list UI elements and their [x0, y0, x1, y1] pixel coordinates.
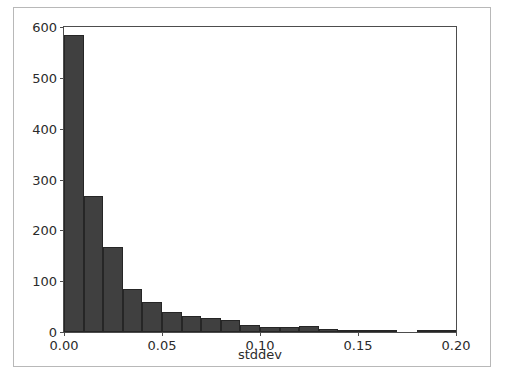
histogram-bar: [182, 316, 202, 332]
figure-panel: 0100200300400500600 0.000.050.100.150.20…: [13, 7, 491, 367]
plot-area: 0100200300400500600 0.000.050.100.150.20: [63, 26, 457, 333]
y-tick-label: 0: [49, 326, 57, 339]
histogram-bars: [64, 27, 456, 332]
x-tick-mark: [358, 332, 359, 336]
histogram-bar: [260, 327, 280, 332]
y-tick-mark: [60, 78, 64, 79]
y-tick-mark: [60, 27, 64, 28]
y-tick-label: 400: [32, 122, 57, 135]
histogram-bar: [417, 330, 437, 332]
y-tick-label: 200: [32, 224, 57, 237]
histogram-bar: [338, 330, 358, 332]
x-tick-mark: [260, 332, 261, 336]
histogram-bar: [319, 329, 339, 332]
y-tick-label: 600: [32, 21, 57, 34]
histogram-bar: [436, 330, 456, 332]
histogram-bar: [103, 247, 123, 332]
histogram-bar: [84, 196, 104, 332]
x-tick-mark: [64, 332, 65, 336]
histogram-bar: [280, 327, 300, 332]
histogram-bar: [123, 289, 143, 332]
histogram-bar: [378, 330, 398, 332]
histogram-bar: [358, 330, 378, 332]
histogram-bar: [221, 320, 241, 332]
x-axis-label: stddev: [63, 348, 457, 361]
histogram-bar: [240, 325, 260, 332]
y-tick-mark: [60, 129, 64, 130]
histogram-bar: [142, 302, 162, 332]
histogram-bar: [64, 35, 84, 332]
y-tick-label: 300: [32, 173, 57, 186]
x-tick-mark: [456, 332, 457, 336]
y-tick-mark: [60, 230, 64, 231]
histogram-bar: [162, 312, 182, 332]
y-tick-label: 500: [32, 71, 57, 84]
histogram-bar: [201, 318, 221, 332]
y-tick-mark: [60, 180, 64, 181]
y-tick-label: 100: [32, 275, 57, 288]
y-tick-mark: [60, 281, 64, 282]
x-tick-mark: [162, 332, 163, 336]
histogram-bar: [299, 326, 319, 332]
